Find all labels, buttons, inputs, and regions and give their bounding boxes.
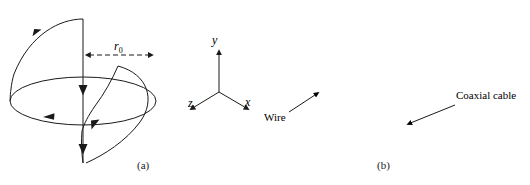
- wire-annotation-label: Wire: [264, 111, 286, 123]
- figure-container: r0 y x z (a): [0, 0, 530, 185]
- panel-b-caption: (b): [377, 159, 390, 171]
- photo-annotation-layer: [0, 0, 265, 185]
- coaxial-cable-annotation-label: Coaxial cable: [456, 89, 516, 101]
